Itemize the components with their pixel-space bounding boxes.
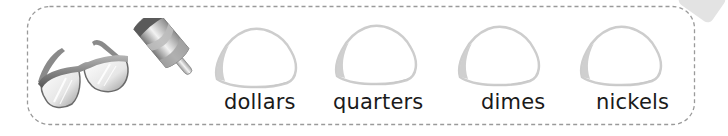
nickels-pile-area (576, 23, 666, 89)
ice-pop-icon (122, 18, 198, 88)
nickels-label: nickels (596, 89, 669, 115)
dimes-pile-area (454, 23, 544, 89)
dollars-label: dollars (224, 89, 296, 115)
dimes-label: dimes (481, 89, 545, 115)
quarters-label: quarters (333, 89, 423, 115)
quarters-pile-area (331, 22, 421, 88)
sunglasses-icon (32, 32, 136, 110)
dollars-pile-area (211, 25, 301, 91)
